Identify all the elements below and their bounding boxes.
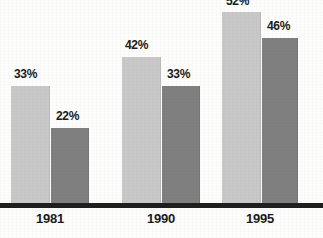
- bar-1990-dark: [162, 86, 200, 204]
- x-axis-tick-1990: 1990: [131, 211, 191, 226]
- x-axis-tick-1995: 1995: [230, 211, 290, 226]
- bar-value-label-1981-dark: 22%: [56, 110, 79, 123]
- bar-value-label-1990-dark: 33%: [167, 68, 190, 81]
- x-axis-tick-1981: 1981: [20, 211, 80, 226]
- bar-value-label-1981-light: 33%: [14, 68, 37, 81]
- bar-value-label-1990-light: 42%: [125, 39, 148, 52]
- bar-1995-dark: [262, 38, 298, 204]
- plot-area: 33% 22% 42% 33% 52% 46%: [0, 0, 323, 204]
- bar-value-label-1995-light: 52%: [226, 0, 249, 8]
- bar-1981-dark: [51, 128, 89, 204]
- bar-chart: 33% 22% 42% 33% 52% 46% 1981 1990 1995: [0, 0, 323, 238]
- bar-value-label-1995-dark: 46%: [267, 20, 290, 33]
- bar-1990-light: [122, 57, 161, 204]
- bar-1995-light: [222, 12, 261, 204]
- x-axis-line: [0, 203, 323, 208]
- bar-1981-light: [11, 86, 50, 204]
